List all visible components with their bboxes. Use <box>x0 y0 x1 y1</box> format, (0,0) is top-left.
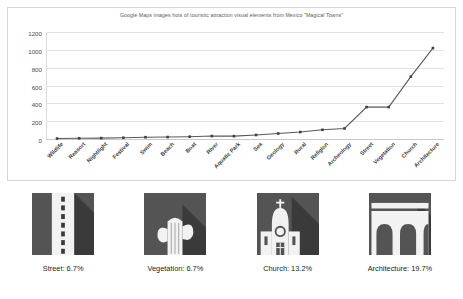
thumbnail-image[interactable] <box>369 189 431 259</box>
y-axis-tick-label: 0 <box>39 137 42 144</box>
thumbnail-image[interactable] <box>144 189 206 259</box>
x-axis-tick-label: Wildlife <box>46 141 64 159</box>
y-axis-tick-label: 1000 <box>28 47 42 54</box>
thumbnail-item[interactable]: Vegetation: 6.7% <box>123 189 227 273</box>
y-axis-tick-label: 400 <box>32 101 42 108</box>
x-axis-tick-label: Boat <box>184 141 197 154</box>
chart-title: Google Maps images hots of touristic att… <box>8 12 455 18</box>
chart-panel: Google Maps images hots of touristic att… <box>7 7 456 181</box>
data-point-marker <box>166 136 169 139</box>
church-icon <box>257 189 319 259</box>
x-axis-tick-label: Nightlight <box>86 141 109 164</box>
x-axis-tick-label: Vegetation <box>372 141 396 165</box>
data-point-marker <box>299 131 302 134</box>
thumbnail-item[interactable]: Street: 6.7% <box>11 189 115 273</box>
thumbnail-image[interactable] <box>257 189 319 259</box>
aqueduct-architecture-icon <box>369 189 431 259</box>
thumbnail-caption: Street: 6.7% <box>43 264 84 273</box>
y-axis-tick-label: 1200 <box>28 30 42 37</box>
data-point-marker <box>432 47 435 50</box>
data-point-marker <box>255 134 258 137</box>
x-axis-tick-label: Rural <box>293 141 307 155</box>
plot-area: 020040060080010001200 <box>46 32 444 139</box>
thumbnail-caption: Church: 13.2% <box>263 264 312 273</box>
data-point-marker <box>277 132 280 135</box>
x-axis-tick-label: Beach <box>159 141 175 157</box>
data-point-marker <box>365 106 368 109</box>
thumbnail-caption: Architecture: 19.7% <box>368 264 433 273</box>
y-axis-tick-label: 200 <box>32 119 42 126</box>
x-axis-tick-label: Geology <box>265 141 285 161</box>
x-axis-tick-label: River <box>205 141 219 155</box>
x-axis-tick-label: Sea <box>252 141 263 152</box>
data-point-marker <box>233 135 236 138</box>
x-axis-tick-label: Street <box>358 141 373 156</box>
thumbnail-image[interactable] <box>32 189 94 259</box>
data-point-marker <box>387 106 390 109</box>
data-point-marker <box>321 129 324 132</box>
y-axis-tick-label: 800 <box>32 65 42 72</box>
x-axis-tick-label: Archeology <box>326 141 352 167</box>
thumbnail-strip: Street: 6.7%Vegetation: 6.7%Church: 13.2… <box>7 189 456 293</box>
x-axis-tick-label: Religion <box>310 141 330 161</box>
line-series <box>46 32 444 139</box>
data-point-marker <box>410 75 413 78</box>
x-axis-tick-label: Reasort <box>67 141 86 160</box>
data-point-marker <box>188 135 191 138</box>
thumbnail-item[interactable]: Architecture: 19.7% <box>348 189 452 273</box>
cactus-vegetation-icon <box>144 189 206 259</box>
x-axis-tick-label: Church <box>400 141 418 159</box>
thumbnail-item[interactable]: Church: 13.2% <box>236 189 340 273</box>
y-axis-tick-label: 600 <box>32 83 42 90</box>
data-point-marker <box>211 135 214 138</box>
street-road-icon <box>32 189 94 259</box>
x-axis-tick-label: Swim <box>138 141 153 156</box>
thumbnail-caption: Vegetation: 6.7% <box>147 264 203 273</box>
series-line <box>57 48 433 139</box>
x-axis-tick-label: Festival <box>112 141 131 160</box>
data-point-marker <box>343 127 346 130</box>
x-axis-labels: WildlifeReasortNightlightFestivalSwimBea… <box>46 139 444 183</box>
